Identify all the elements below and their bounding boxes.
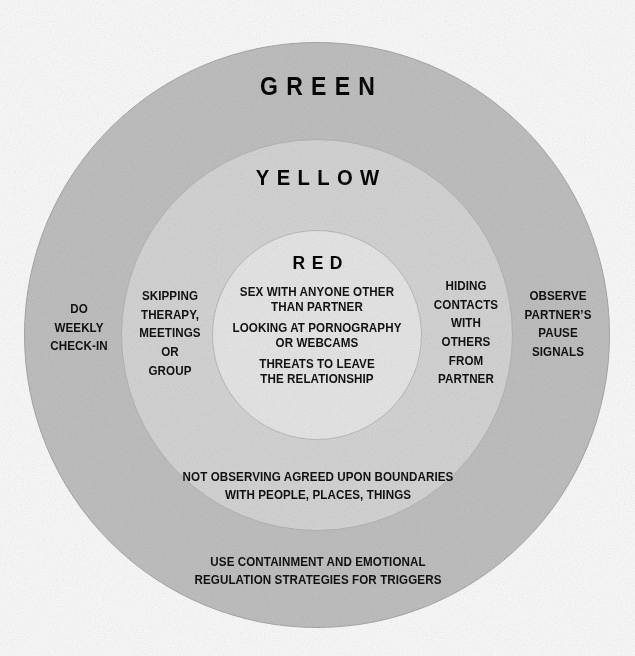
red-item-line: LOOKING AT PORNOGRAPHY — [230, 320, 404, 335]
green-bottom-line: REGULATION STRATEGIES FOR TRIGGERS — [146, 571, 490, 589]
red-item: SEX WITH ANYONE OTHER THAN PARTNER — [230, 284, 404, 315]
green-left-line: WEEKLY — [40, 319, 117, 338]
yellow-left-line: GROUP — [134, 362, 206, 381]
green-zone-right-items: OBSERVE PARTNER’S PAUSE SIGNALS — [518, 287, 599, 362]
diagram-canvas: GREEN YELLOW RED SEX WITH ANYONE OTHER T… — [0, 0, 635, 656]
yellow-zone-left-items: SKIPPING THERAPY, MEETINGS OR GROUP — [134, 287, 206, 380]
green-zone-left-items: DO WEEKLY CHECK-IN — [40, 300, 117, 356]
red-item-line: OR WEBCAMS — [230, 335, 404, 350]
green-left-line: DO — [40, 300, 117, 319]
yellow-left-line: MEETINGS — [134, 324, 206, 343]
red-zone-items: SEX WITH ANYONE OTHER THAN PARTNER LOOKI… — [230, 284, 404, 386]
yellow-right-line: CONTACTS — [429, 296, 503, 315]
green-right-line: PARTNER’S — [518, 306, 599, 325]
red-item: LOOKING AT PORNOGRAPHY OR WEBCAMS — [230, 320, 404, 351]
yellow-right-line: FROM — [429, 352, 503, 371]
green-bottom-line: USE CONTAINMENT AND EMOTIONAL — [146, 553, 490, 571]
yellow-zone-title: YELLOW — [25, 165, 609, 191]
red-item-line: THREATS TO LEAVE — [230, 356, 404, 371]
yellow-right-line: OTHERS — [429, 333, 503, 352]
green-left-line: CHECK-IN — [40, 337, 117, 356]
yellow-left-line: SKIPPING — [134, 287, 206, 306]
yellow-bottom-line: WITH PEOPLE, PLACES, THINGS — [146, 486, 490, 504]
red-item-line: THE RELATIONSHIP — [230, 371, 404, 386]
yellow-bottom-line: NOT OBSERVING AGREED UPON BOUNDARIES — [146, 468, 490, 486]
yellow-zone-right-items: HIDING CONTACTS WITH OTHERS FROM PARTNER — [429, 277, 503, 389]
yellow-zone-bottom-items: NOT OBSERVING AGREED UPON BOUNDARIES WIT… — [146, 468, 490, 503]
yellow-right-line: WITH — [429, 314, 503, 333]
red-zone-title: RED — [25, 252, 609, 274]
green-right-line: PAUSE — [518, 324, 599, 343]
yellow-right-line: HIDING — [429, 277, 503, 296]
green-zone-title: GREEN — [25, 72, 609, 101]
red-item-line: SEX WITH ANYONE OTHER — [230, 284, 404, 299]
green-right-line: SIGNALS — [518, 343, 599, 362]
green-right-line: OBSERVE — [518, 287, 599, 306]
red-item: THREATS TO LEAVE THE RELATIONSHIP — [230, 356, 404, 387]
green-zone-bottom-items: USE CONTAINMENT AND EMOTIONAL REGULATION… — [146, 553, 490, 588]
yellow-left-line: OR — [134, 343, 206, 362]
yellow-right-line: PARTNER — [429, 370, 503, 389]
yellow-left-line: THERAPY, — [134, 306, 206, 325]
red-item-line: THAN PARTNER — [230, 299, 404, 314]
